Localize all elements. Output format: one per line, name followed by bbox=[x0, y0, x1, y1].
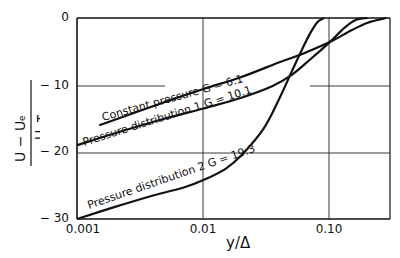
x-tick-010: 0.10 bbox=[316, 222, 343, 236]
y-tick-0: 0 bbox=[23, 10, 69, 24]
y-tick-neg30: − 30 bbox=[23, 211, 69, 225]
x-tick-0001: 0.001 bbox=[66, 222, 100, 236]
x-tick-001: 0.01 bbox=[190, 222, 217, 236]
x-axis-label: y/Δ bbox=[226, 234, 250, 252]
y-axis-label-numerator: U − Uₑ bbox=[12, 115, 28, 162]
y-axis-label: U − Uₑ U_τ bbox=[4, 78, 40, 168]
y-axis-label-denominator: U_τ bbox=[32, 114, 40, 140]
